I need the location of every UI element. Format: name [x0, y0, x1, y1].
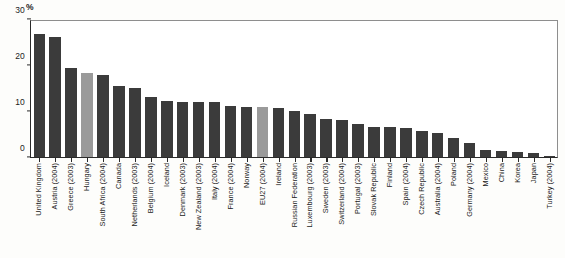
x-tick-slot: [334, 158, 350, 162]
x-label-slot: Sweden (2003): [318, 163, 334, 256]
bar-slot: [398, 20, 414, 157]
x-tick-label: Denmark (2003): [179, 163, 186, 216]
bar[interactable]: [544, 156, 555, 157]
bar[interactable]: [384, 127, 395, 157]
bar-slot: [462, 20, 478, 157]
bar[interactable]: [209, 102, 220, 156]
bar-slot: [509, 20, 525, 157]
bar[interactable]: [480, 150, 491, 157]
x-tick-mark: [342, 158, 343, 162]
x-tick-mark: [103, 158, 104, 162]
bar[interactable]: [145, 97, 156, 157]
x-tick-mark: [55, 158, 56, 162]
x-tick-mark: [87, 158, 88, 162]
x-tick-label: Slovak Republic: [371, 163, 378, 216]
bar[interactable]: [65, 68, 76, 156]
x-tick-slot: [382, 158, 398, 162]
bar[interactable]: [225, 106, 236, 157]
x-tick-label: Spain (2004): [403, 163, 410, 205]
x-tick-label: France (2004): [227, 163, 234, 209]
bar-slot: [446, 20, 462, 157]
bar[interactable]: [352, 124, 363, 157]
bar[interactable]: [289, 111, 300, 157]
bar[interactable]: [336, 120, 347, 157]
bar[interactable]: [177, 102, 188, 157]
x-label-slot: New Zealand (2003): [191, 163, 207, 256]
x-label-slot: Germany (2004): [462, 163, 478, 256]
x-tick-label: Switzerland (2004): [339, 163, 346, 225]
bar[interactable]: [81, 73, 92, 156]
x-tick-slot: [478, 158, 494, 162]
bar[interactable]: [304, 114, 315, 156]
x-tick-slot: [207, 158, 223, 162]
x-tick-label: Finland: [387, 163, 394, 187]
bar[interactable]: [257, 107, 268, 157]
x-tick-slot: [303, 158, 319, 162]
bar[interactable]: [129, 88, 140, 156]
bar[interactable]: [241, 107, 252, 157]
x-tick-slot: [350, 158, 366, 162]
x-tick-label: China: [498, 163, 505, 182]
bar[interactable]: [273, 108, 284, 157]
bar-slot: [478, 20, 494, 157]
x-label-slot: Czech Republic: [414, 163, 430, 256]
bar-slot: [254, 20, 270, 157]
x-label-slot: South Africa (2004): [95, 163, 111, 256]
chart-page: % 0102030 United KingdomAustria (2004)Gr…: [0, 0, 565, 258]
plot-area: 0102030: [30, 20, 558, 158]
x-label-slot: Canada: [111, 163, 127, 256]
x-tick-label: Korea: [514, 163, 521, 183]
x-tick-slot: [159, 158, 175, 162]
x-tick-mark: [247, 158, 248, 162]
bar-slot: [350, 20, 366, 157]
x-tick-slot: [111, 158, 127, 162]
bar[interactable]: [49, 37, 60, 156]
bar-slot: [382, 20, 398, 157]
bar[interactable]: [400, 128, 411, 157]
bar[interactable]: [416, 131, 427, 157]
x-tick-mark: [518, 158, 519, 162]
x-label-slot: Portugal (2003): [350, 163, 366, 256]
bar-slot: [493, 20, 509, 157]
bar-slot: [95, 20, 111, 157]
bar[interactable]: [161, 101, 172, 157]
x-tick-label: Mexico: [482, 163, 489, 186]
x-tick-label: Luxembourg (2003): [307, 163, 314, 228]
x-label-slot: United Kingdom: [31, 163, 47, 256]
x-tick-slot: [494, 158, 510, 162]
x-tick-label: Czech Republic: [418, 163, 425, 215]
bar[interactable]: [496, 151, 507, 156]
bar[interactable]: [320, 119, 331, 157]
bar[interactable]: [368, 127, 379, 157]
bar[interactable]: [34, 34, 45, 157]
bar[interactable]: [512, 152, 523, 157]
x-tick-mark: [454, 158, 455, 162]
x-tick-mark: [215, 158, 216, 162]
x-tick-label: Hungary: [83, 163, 90, 191]
x-tick-mark: [279, 158, 280, 162]
bar[interactable]: [113, 86, 124, 157]
x-tick-mark: [119, 158, 120, 162]
bar[interactable]: [448, 138, 459, 156]
x-label-slot: Finland: [382, 163, 398, 256]
bar[interactable]: [528, 153, 539, 157]
x-tick-mark: [295, 158, 296, 162]
bar[interactable]: [193, 102, 204, 157]
bar[interactable]: [464, 143, 475, 157]
x-tick-slot: [63, 158, 79, 162]
x-tick-mark: [71, 158, 72, 162]
x-tick-slot: [143, 158, 159, 162]
bar[interactable]: [432, 133, 443, 156]
x-label-slot: Luxembourg (2003): [303, 163, 319, 256]
x-tick-mark: [263, 158, 264, 162]
x-tick-label: Turkey (2004): [546, 163, 553, 209]
bar-slot: [302, 20, 318, 157]
x-tick-label: Poland: [450, 163, 457, 186]
x-tick-slot: [366, 158, 382, 162]
x-tick-slot: [542, 158, 558, 162]
bar[interactable]: [97, 75, 108, 157]
y-tick-label: 10: [15, 97, 25, 107]
x-tick-label: South Africa (2004): [99, 163, 106, 226]
x-label-slot: Japan: [526, 163, 542, 256]
x-tick-slot: [271, 158, 287, 162]
